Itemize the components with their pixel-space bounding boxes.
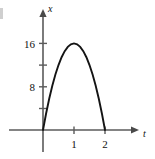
parabola-curve	[43, 43, 105, 130]
y-tick-label-16: 16	[24, 38, 36, 50]
plot-canvas: 16 8 1 2 x t	[0, 0, 155, 159]
y-tick-label-8: 8	[30, 81, 36, 93]
x-axis-label: t	[143, 128, 146, 139]
arrow-up-icon	[39, 9, 46, 17]
x-tick-label-1: 1	[71, 138, 77, 150]
y-axis-label: x	[47, 3, 53, 14]
parabola-figure: 16 8 1 2 x t	[0, 0, 155, 159]
x-tick-label-2: 2	[102, 138, 108, 150]
arrow-right-icon	[131, 126, 139, 133]
